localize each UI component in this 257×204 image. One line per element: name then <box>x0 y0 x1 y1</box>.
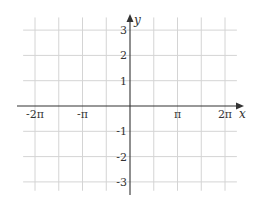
x-axis-label: x <box>239 107 246 121</box>
axes: x y <box>17 13 246 195</box>
y-tick-label: -2 <box>116 151 127 164</box>
x-tick-label: π <box>174 108 181 121</box>
y-tick-label: -3 <box>116 176 127 189</box>
y-tick-label: 2 <box>120 49 127 62</box>
y-tick-label: 1 <box>120 75 127 88</box>
y-tick-label: -1 <box>116 125 127 138</box>
coordinate-plane: x y -2π-ππ2π 321-1-2-3 <box>0 0 257 204</box>
x-tick-label: 2π <box>218 108 232 121</box>
y-tick-label: 3 <box>120 24 127 37</box>
x-tick-label: -2π <box>26 108 44 121</box>
x-tick-label: -π <box>77 108 88 121</box>
y-axis-label: y <box>133 13 141 27</box>
y-axis-arrow-icon <box>127 14 134 22</box>
